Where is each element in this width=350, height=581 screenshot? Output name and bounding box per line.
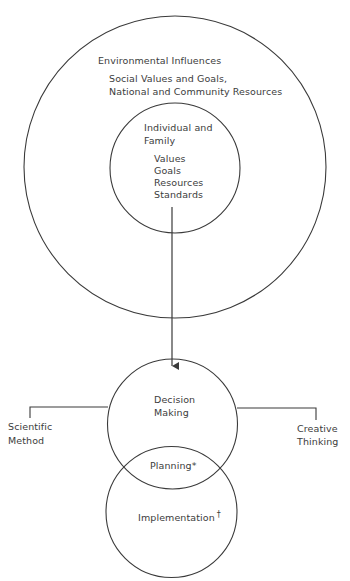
item-goals: Goals: [154, 165, 181, 177]
environmental-influences-title: Environmental Influences: [98, 55, 221, 67]
social-values-text: Social Values and Goals,: [109, 73, 227, 85]
individual-family-title-line1: Individual and: [144, 122, 213, 134]
community-resources-text: National and Community Resources: [109, 86, 282, 98]
implementation-text: Implementation: [138, 512, 215, 523]
creative-thinking-line1: Creative: [297, 423, 338, 435]
item-values: Values: [154, 153, 186, 165]
scientific-method-line2: Method: [8, 435, 44, 447]
decision-making-line1: Decision: [154, 394, 195, 406]
scientific-method-connector: [30, 407, 108, 418]
implementation-label: Implementation†: [138, 509, 221, 524]
creative-thinking-line2: Thinking: [297, 436, 338, 448]
individual-family-title-line2: Family: [144, 135, 175, 147]
planning-label: Planning*: [150, 460, 197, 472]
dagger-footnote-mark: †: [217, 510, 221, 519]
scientific-method-line1: Scientific: [8, 421, 52, 433]
decision-making-line2: Making: [154, 407, 189, 419]
item-resources: Resources: [154, 177, 203, 189]
creative-thinking-connector: [237, 408, 316, 420]
item-standards: Standards: [154, 189, 203, 201]
